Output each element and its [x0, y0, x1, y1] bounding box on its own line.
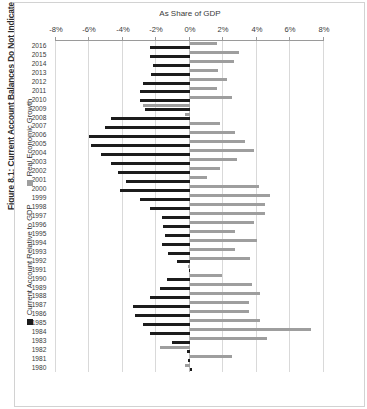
plot-area — [56, 41, 324, 372]
value-tick-label: -8% — [36, 24, 76, 36]
bar-ca-1994 — [162, 243, 190, 246]
legend-swatch-icon-growth — [27, 180, 33, 186]
legend-items: Current Account Relative to GDP Real Eco… — [22, 52, 38, 372]
bar-growth-1995 — [190, 230, 235, 233]
bar-ca-2001 — [126, 180, 190, 183]
bar-ca-1982 — [187, 350, 190, 353]
value-tick — [55, 37, 56, 41]
legend-swatch-icon-current-account — [27, 319, 33, 325]
bar-growth-1989 — [190, 283, 252, 286]
bar-ca-2005 — [91, 144, 190, 147]
bar-growth-2005 — [190, 140, 245, 143]
value-tick-label: 0% — [170, 24, 210, 36]
bar-ca-1995 — [165, 234, 190, 237]
bar-ca-1993 — [168, 252, 190, 255]
bar-ca-2002 — [118, 171, 190, 174]
bar-growth-2002 — [190, 167, 220, 170]
bar-ca-2016 — [150, 46, 190, 49]
bar-ca-2008 — [111, 117, 190, 120]
figure-page: Figure 8.1: Current Account Balances Do … — [0, 0, 367, 409]
bar-ca-1996 — [163, 225, 190, 228]
bar-growth-2010 — [190, 96, 232, 99]
bar-ca-1981 — [188, 359, 190, 362]
value-tick — [122, 37, 123, 41]
bar-ca-2007 — [105, 126, 190, 129]
figure-card: 1980198119821983198419851986198719881989… — [14, 2, 365, 407]
bar-ca-2015 — [150, 55, 190, 58]
bar-growth-2009 — [143, 104, 190, 107]
bar-growth-1987 — [190, 301, 249, 304]
bar-growth-1992 — [190, 257, 250, 260]
gridline-4 — [256, 41, 257, 372]
gridline-6 — [290, 41, 291, 372]
bar-growth-1984 — [190, 328, 311, 331]
bar-ca-2009 — [145, 108, 190, 111]
bar-growth-1983 — [190, 337, 267, 340]
bar-ca-1991 — [189, 269, 190, 272]
bar-ca-1983 — [172, 341, 190, 344]
bar-ca-1986 — [135, 314, 190, 317]
bar-ca-2013 — [151, 73, 190, 76]
bar-ca-1985 — [143, 323, 190, 326]
value-tick-label: 4% — [237, 24, 277, 36]
bar-ca-2011 — [140, 90, 190, 93]
bar-growth-1990 — [190, 274, 222, 277]
bar-ca-1999 — [140, 198, 190, 201]
bar-growth-2015 — [190, 51, 239, 54]
chart-legend: Current Account Relative to GDP Real Eco… — [24, 41, 48, 372]
bar-growth-2014 — [190, 60, 234, 63]
gridline-neg4 — [122, 41, 123, 372]
bar-growth-1994 — [190, 239, 257, 242]
bar-ca-1990 — [167, 278, 190, 281]
value-axis-title: As Share of GDP — [56, 8, 324, 20]
bar-growth-1991 — [188, 266, 190, 269]
bar-ca-1989 — [160, 287, 190, 290]
gridline-neg6 — [89, 41, 90, 372]
bar-ca-2003 — [111, 162, 190, 165]
bar-growth-2003 — [190, 158, 237, 161]
legend-item-growth: Real Economic Growth — [25, 99, 35, 187]
bar-growth-1982 — [160, 346, 190, 349]
gridline-neg8 — [55, 41, 56, 372]
bar-ca-1992 — [177, 260, 190, 263]
value-tick-label: -4% — [103, 24, 143, 36]
bar-growth-1996 — [190, 221, 254, 224]
value-tick — [256, 37, 257, 41]
bar-growth-1986 — [190, 310, 249, 313]
bar-growth-2013 — [190, 69, 218, 72]
legend-label-current-account: Current Account Relative to GDP — [25, 204, 35, 315]
bar-growth-2008 — [185, 113, 190, 116]
bar-growth-1999 — [190, 194, 270, 197]
bar-ca-1987 — [133, 305, 190, 308]
chart-canvas: 1980198119821983198419851986198719881989… — [15, 3, 366, 408]
bar-ca-1984 — [150, 332, 190, 335]
gridline-2 — [223, 41, 224, 372]
bar-growth-1998 — [190, 203, 265, 206]
bar-growth-1981 — [190, 355, 232, 358]
bar-ca-1988 — [150, 296, 190, 299]
gridline-8 — [323, 41, 324, 372]
legend-item-current-account: Current Account Relative to GDP — [25, 204, 35, 325]
bar-growth-1985 — [190, 319, 260, 322]
value-tick — [323, 37, 324, 41]
value-tick-label: 8% — [304, 24, 344, 36]
bar-ca-2004 — [101, 153, 190, 156]
bar-ca-2012 — [143, 82, 190, 85]
bar-growth-2007 — [190, 122, 220, 125]
bar-growth-1980 — [185, 364, 190, 367]
value-tick — [189, 37, 190, 41]
bar-ca-2010 — [140, 99, 190, 102]
bar-ca-2006 — [90, 135, 191, 138]
value-tick — [89, 37, 90, 41]
bar-growth-2004 — [190, 149, 254, 152]
bar-growth-2016 — [190, 42, 217, 45]
bar-ca-1998 — [150, 207, 190, 210]
bar-growth-2011 — [190, 87, 217, 90]
bar-growth-1988 — [190, 292, 260, 295]
bar-growth-2001 — [190, 176, 207, 179]
bar-growth-2012 — [190, 78, 227, 81]
bar-growth-2006 — [190, 131, 235, 134]
bar-growth-1993 — [190, 248, 235, 251]
value-tick — [290, 37, 291, 41]
value-tick — [156, 37, 157, 41]
